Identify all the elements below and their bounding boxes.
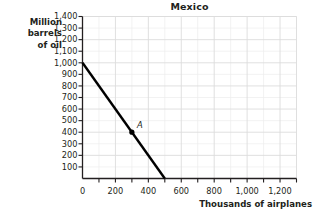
y-tick-label: 200 xyxy=(42,151,78,159)
y-tick-label: 300 xyxy=(42,140,78,148)
y-tick-label: 600 xyxy=(42,105,78,113)
horizontal-minor-gridlines xyxy=(83,17,297,167)
y-tick-label: 400 xyxy=(42,128,78,136)
y-tick-label: 500 xyxy=(42,116,78,124)
y-tick-label: 900 xyxy=(42,70,78,78)
annotation-label-a: A xyxy=(137,121,143,129)
y-tick-label: 1,200 xyxy=(42,35,78,43)
y-tick-label: 1,300 xyxy=(42,24,78,32)
y-tick-label: 100 xyxy=(42,163,78,171)
y-tick-label: 1,400 xyxy=(42,12,78,20)
y-tick-label: 800 xyxy=(42,82,78,90)
chart-figure: Mexico Million barrels of oil Thousands … xyxy=(0,0,315,218)
y-tick-label: 1,000 xyxy=(42,59,78,67)
x-tick-label: 1,200 xyxy=(260,187,300,195)
data-point-marker xyxy=(129,130,134,135)
data-point-markers xyxy=(129,130,134,135)
y-tick-label: 1,100 xyxy=(42,47,78,55)
y-tick-label: 700 xyxy=(42,93,78,101)
